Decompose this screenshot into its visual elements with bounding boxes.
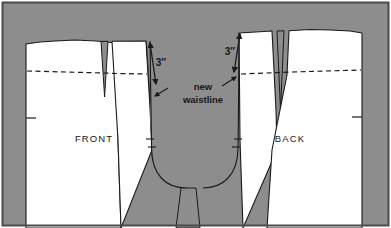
pattern-diagram-figure: 3″ 3″ new waistline FRONT BACK	[0, 0, 391, 228]
pattern-diagram-page: 3″ 3″ new waistline FRONT BACK	[0, 0, 391, 228]
front-piece-label: FRONT	[75, 133, 113, 144]
back-piece-label: BACK	[275, 133, 305, 144]
new-waistline-label-line2: waistline	[182, 94, 223, 105]
front-drop-label: 3″	[156, 57, 167, 68]
back-drop-label: 3″	[225, 46, 236, 57]
new-waistline-label-line1: new	[194, 81, 213, 92]
